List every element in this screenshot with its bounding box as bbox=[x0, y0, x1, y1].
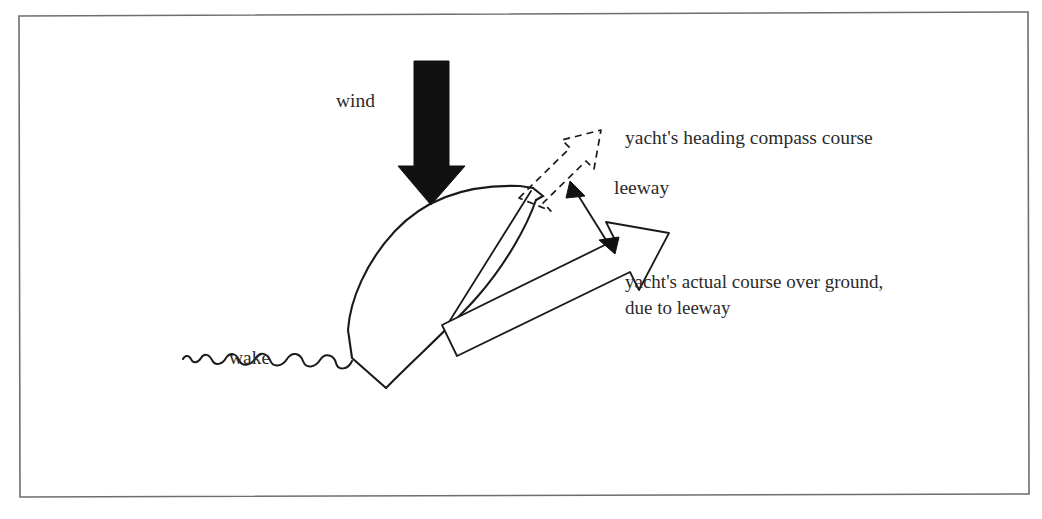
yacht-hull bbox=[348, 186, 543, 388]
heading-label: yacht's heading compass course bbox=[625, 127, 873, 148]
wind-arrow bbox=[398, 61, 465, 205]
page-border bbox=[19, 12, 1029, 497]
course-label-line2: due to leeway bbox=[625, 297, 731, 318]
heading-arrow bbox=[519, 130, 601, 211]
leeway-label: leeway bbox=[614, 177, 669, 198]
wake-label: wake bbox=[229, 347, 270, 368]
leeway-diagram-canvas: wind wake yacht's heading compass course bbox=[0, 0, 1042, 519]
wind-label: wind bbox=[336, 90, 375, 111]
leeway-arrow bbox=[566, 181, 619, 254]
course-label-line1: yacht's actual course over ground, bbox=[625, 271, 883, 292]
diagram-root: wind wake yacht's heading compass course bbox=[0, 0, 1042, 519]
